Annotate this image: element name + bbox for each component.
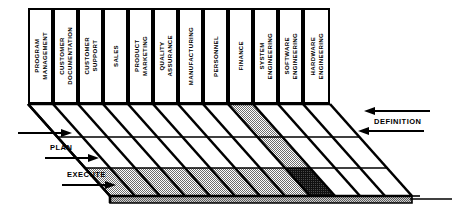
phase-label-definition: DEFINITION [374,117,422,126]
header-label: PROGRAM MANAGEMENT [33,32,49,80]
header-label: HARDWARE ENGINEERING [309,33,325,79]
header-cell-system-engineering[interactable]: SYSTEM ENGINEERING [253,8,278,104]
header-label: CUSTOMER SUPPORT [83,37,99,74]
header-cell-customer-documentation[interactable]: CUSTOMER DOCUMENTATION [53,8,78,104]
header-cell-personnel[interactable]: PERSONNEL [203,8,228,104]
phase-label-plan: PLAN [50,143,72,152]
header-label: SYSTEM ENGINEERING [258,33,274,79]
header-label: CUSTOMER DOCUMENTATION [58,27,74,85]
header-label: SOFTWARE ENGINEERING [283,33,299,79]
header-label: PRODUCT MARKETING [133,36,149,76]
header-cell-software-engineering[interactable]: SOFTWARE ENGINEERING [278,8,303,104]
header-cell-customer-support[interactable]: CUSTOMER SUPPORT [78,8,103,104]
header-cell-quality-assurance[interactable]: QUALITY ASSURANCE [153,8,178,104]
header-cell-sales[interactable]: SALES [103,8,128,104]
header-cell-product-marketing[interactable]: PRODUCT MARKETING [128,8,153,104]
header-cell-program-management[interactable]: PROGRAM MANAGEMENT [28,8,53,104]
header-label: PERSONNEL [212,36,220,77]
header-cell-finance[interactable]: FINANCE [228,8,253,104]
diagram-canvas: PROGRAM MANAGEMENT CUSTOMER DOCUMENTATIO… [0,0,468,212]
header-label: SALES [112,45,120,67]
header-label: FINANCE [237,41,245,70]
header-label: MANUFACTURING [187,27,195,85]
header-cell-manufacturing[interactable]: MANUFACTURING [178,8,203,104]
header-label: QUALITY ASSURANCE [158,35,174,77]
phase-label-execute: EXECUTE [67,170,106,179]
header-cell-hardware-engineering[interactable]: HARDWARE ENGINEERING [303,8,330,104]
